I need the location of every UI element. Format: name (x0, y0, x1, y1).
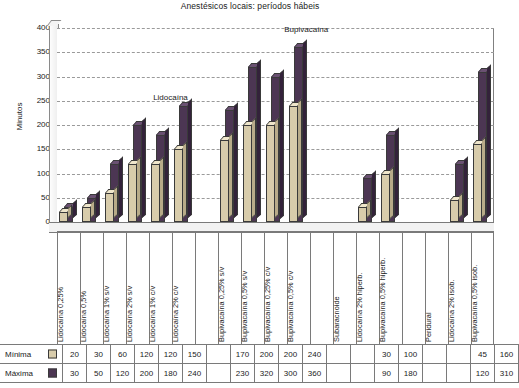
bar-group (80, 28, 103, 222)
values-table-body: Mínima2030601201201501702002002403010045… (0, 345, 519, 383)
bar-group (448, 28, 471, 222)
bar-minima (358, 207, 367, 222)
bar-minima (105, 193, 114, 222)
table-cell: 30 (375, 345, 399, 364)
table-cell: 180 (159, 364, 183, 383)
bar-front-face (59, 212, 68, 222)
bar-minima (128, 164, 137, 222)
y-tick-label: 300 (37, 71, 50, 80)
bar-front-face (450, 200, 459, 222)
bar-group (356, 28, 379, 222)
bar-side-face (487, 64, 491, 218)
bar-minima (381, 174, 390, 223)
category-cell: Subaracnoide (333, 231, 356, 344)
table-cell: 60 (111, 345, 135, 364)
bar-group (149, 28, 172, 222)
bar-front-face (289, 106, 298, 222)
category-cell: Bupivacaína 0,5% s/v (241, 231, 264, 344)
category-cell: Lidocaína 2% s/v (126, 231, 149, 344)
bar-minima (151, 164, 160, 222)
bar-side-face (275, 117, 279, 218)
table-cell (207, 345, 231, 364)
bar-front-face (266, 125, 275, 222)
y-axis-ticks: 400350300250200150100500 (22, 27, 50, 223)
category-label: Lidocaína 0,5% (79, 291, 88, 342)
bar-group (126, 28, 149, 222)
category-cell: Lidocaína 0,5% (80, 231, 103, 344)
bar-side-face (257, 59, 261, 218)
bar-side-face (188, 98, 192, 218)
bar-side-face (252, 117, 256, 218)
table-cell: 150 (183, 345, 207, 364)
category-cell: Lidocaína 1% s/v (103, 231, 126, 344)
bar-side-face (119, 156, 123, 218)
category-label: Lidocaína 2% hiperb. (355, 273, 364, 342)
bar-group (287, 28, 310, 222)
bar-side-face (482, 137, 486, 218)
bar-group (218, 28, 241, 222)
category-cell: Bupivacaína 0,5% hiperb. (379, 231, 402, 344)
y-tick-label: 250 (37, 95, 50, 104)
category-cell: Lidocaína 2% hiperb. (356, 231, 379, 344)
bar-front-face (82, 207, 91, 222)
bar-group (103, 28, 126, 222)
table-cell: 300 (279, 364, 303, 383)
bar-front-face (128, 164, 137, 222)
category-label: Lidocaína 0,25% (56, 287, 65, 342)
max-swatch (48, 369, 57, 378)
table-cell: 240 (303, 345, 327, 364)
bar-front-face (243, 125, 252, 222)
y-tick-label: 350 (37, 47, 50, 56)
category-label: Peridural (424, 312, 433, 342)
table-row: Máxima3050120200180240230320300360901801… (0, 364, 519, 383)
y-tick-label: 100 (37, 168, 50, 177)
bar-front-face (473, 144, 482, 222)
table-cell (351, 345, 375, 364)
category-cell (402, 231, 425, 344)
category-label: Lidocaína 2% isob. (447, 280, 456, 342)
table-cell: 240 (183, 364, 207, 383)
bar-minima (59, 212, 68, 222)
table-cell: 200 (135, 364, 159, 383)
category-cell: Peridural (425, 231, 448, 344)
bar-side-face (298, 98, 302, 218)
category-cell: Lidocaína 0,25% (57, 231, 80, 344)
table-cell: 170 (231, 345, 255, 364)
category-labels: Lidocaína 0,25%Lidocaína 0,5%Lidocaína 1… (57, 231, 494, 344)
category-cell (310, 231, 333, 344)
category-label: Bupivacaína 0,25% s/v (217, 267, 226, 342)
table-cell: 200 (279, 345, 303, 364)
category-label: Lidocaína 1% c/v (148, 286, 157, 342)
category-label: Subaracnoide (332, 296, 341, 342)
bar-minima (266, 125, 275, 222)
category-label: Bupivacaína 0,5% isob. (470, 265, 479, 342)
bar-front-face (174, 149, 183, 222)
bar-group (57, 28, 80, 222)
category-cell: Bupivacaína 0,5% isob. (471, 231, 494, 344)
bar-group (379, 28, 402, 222)
table-cell: 160 (495, 345, 519, 364)
bar-front-face (381, 174, 390, 223)
bar-front-face (220, 140, 229, 222)
category-label: Bupivacaína 0,5% hiperb. (378, 258, 387, 342)
bar-minima (289, 106, 298, 222)
bar-front-face (358, 207, 367, 222)
category-label: Bupivacaína 0,5% s/v (240, 271, 249, 342)
category-label: Lidocaína 2% s/v (125, 286, 134, 342)
bar-front-face (151, 164, 160, 222)
table-cell (447, 364, 471, 383)
series-legend-máxima: Máxima (0, 364, 63, 383)
bar-side-face (183, 142, 187, 218)
category-label: Lidocaína 1% s/v (102, 286, 111, 342)
bar-side-face (390, 166, 394, 218)
bar-minima (473, 144, 482, 222)
category-label: Bupivacaína 0,5% c/v (286, 271, 295, 342)
bar-side-face (165, 127, 169, 218)
table-cell (423, 364, 447, 383)
category-cell: Lidocaína 2% c/v (172, 231, 195, 344)
chart-annotation: Lidocaína (153, 93, 188, 102)
bar-side-face (459, 193, 463, 218)
category-label: Bupivacaína 0,25% c/v (263, 267, 272, 342)
table-cell: 310 (495, 364, 519, 383)
